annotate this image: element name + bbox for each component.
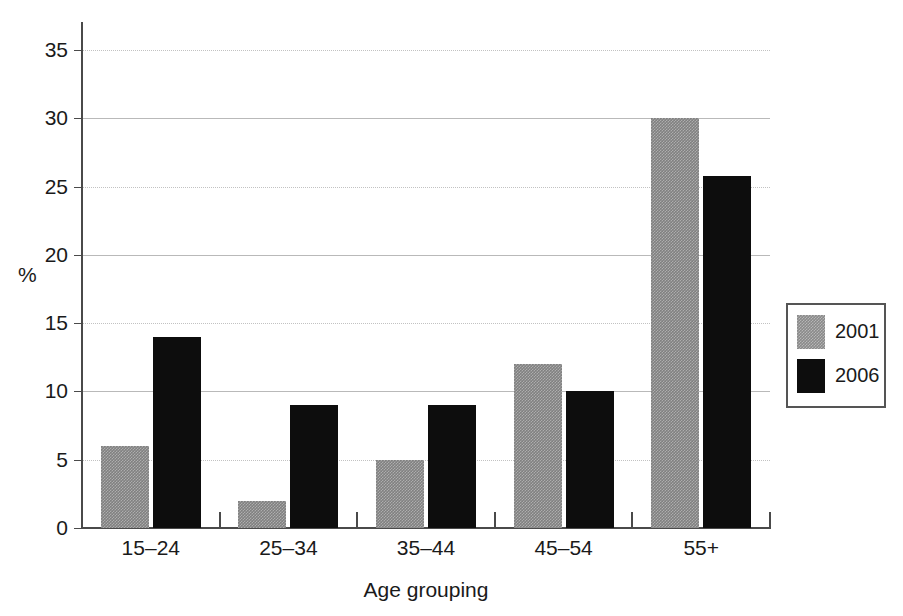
- plot-area: [82, 44, 770, 528]
- y-axis-tick-label: 25: [28, 176, 68, 197]
- x-axis-tick: [356, 512, 358, 528]
- x-axis-tick-label: 35–44: [356, 536, 496, 560]
- bar-2006-55+: [703, 176, 751, 528]
- legend: 20012006: [786, 303, 886, 408]
- bar-2001-25_34: [238, 501, 286, 528]
- x-axis-tick: [219, 512, 221, 528]
- y-axis-tick-label: 30: [28, 107, 68, 128]
- y-axis-title: %: [18, 264, 37, 285]
- x-axis-tick-label: 25–34: [218, 536, 358, 560]
- x-axis-tick: [631, 512, 633, 528]
- bar-2001-35_44: [376, 460, 424, 528]
- bar-2006-35_44: [428, 405, 476, 528]
- x-axis-tick-label: 45–54: [494, 536, 634, 560]
- bar-2006-15_24: [153, 337, 201, 528]
- y-axis-tick-label: 10: [28, 380, 68, 401]
- x-axis-tick-label: 55+: [631, 536, 771, 560]
- bar-chart: 05101520253035 % 15–2425–3435–4445–5455+…: [0, 0, 903, 616]
- y-axis-tick-label: 5: [28, 449, 68, 470]
- legend-swatch-2001: [797, 315, 825, 349]
- bar-2006-45_54: [566, 391, 614, 528]
- bar-2001-15_24: [101, 446, 149, 528]
- y-axis-tick-label: 35: [28, 39, 68, 60]
- legend-swatch-2006: [797, 359, 825, 393]
- x-axis-title: Age grouping: [82, 578, 770, 602]
- bar-2006-25_34: [290, 405, 338, 528]
- bar-2001-45_54: [514, 364, 562, 528]
- x-axis-tick: [494, 512, 496, 528]
- y-axis-tick-label: 15: [28, 312, 68, 333]
- legend-label-2001: 2001: [835, 320, 880, 342]
- bar-2001-55+: [651, 118, 699, 528]
- x-axis-tick-label: 15–24: [81, 536, 221, 560]
- legend-label-2006: 2006: [835, 364, 880, 386]
- y-axis-tick-label: 20: [28, 244, 68, 265]
- y-axis-tick-label: 0: [28, 517, 68, 538]
